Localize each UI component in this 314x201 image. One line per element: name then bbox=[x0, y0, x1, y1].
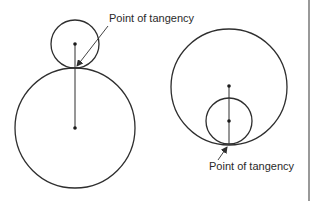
large-circle-center-dot bbox=[73, 126, 77, 130]
small-circle-center-dot bbox=[227, 119, 231, 123]
internal-tangency-figure bbox=[171, 29, 287, 160]
external-tangency-figure bbox=[15, 20, 135, 188]
tangency-label-external: Point of tangency bbox=[109, 12, 194, 24]
small-circle-center-dot bbox=[73, 42, 77, 46]
tangency-arrow bbox=[218, 147, 227, 160]
large-circle-center-dot bbox=[227, 84, 231, 88]
tangency-diagram: Point of tangency Point of tangency bbox=[0, 0, 314, 201]
tangency-label-internal: Point of tangency bbox=[209, 160, 294, 172]
